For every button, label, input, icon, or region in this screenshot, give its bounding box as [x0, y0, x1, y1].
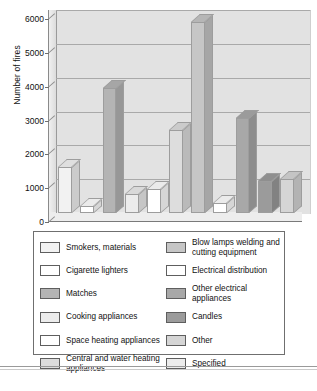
legend-swatch: [166, 242, 186, 253]
bar-chart-figure: Number of fires 010002000300040005000600…: [0, 0, 317, 228]
legend-item-label: Other: [192, 336, 212, 346]
y-axis-tick-label: 2000: [25, 150, 44, 159]
y-axis-tick-label: 5000: [25, 49, 44, 58]
legend-item: Other: [160, 329, 286, 352]
bar: [258, 181, 272, 213]
page-divider-rule-2: [0, 369, 317, 370]
bar: [169, 130, 183, 213]
legend-swatch: [40, 358, 60, 369]
y-axis-tick-mark: [45, 19, 49, 20]
bar-front-face: [125, 194, 139, 213]
legend-item: Other electrical appliances: [160, 282, 286, 305]
y-axis-tick-mark: [45, 154, 49, 155]
legend-swatch: [40, 288, 60, 299]
legend-swatch: [40, 265, 60, 276]
gridline: [56, 44, 310, 45]
y-axis-tick-label: 4000: [25, 82, 44, 91]
legend-item: Space heating appliances: [34, 329, 160, 352]
y-axis-tick-label: 0: [39, 218, 44, 227]
legend-item-label: Smokers, materials: [66, 243, 136, 253]
y-axis-title: Number of fires: [12, 30, 22, 120]
gridline: [56, 78, 310, 79]
legend-item-label: Blow lamps welding and cutting equipment: [192, 238, 286, 257]
y-axis-tick-mark: [45, 87, 49, 88]
bar-front-face: [169, 130, 183, 213]
plot-area: 0100020003000400050006000: [48, 10, 310, 222]
bar-front-face: [213, 203, 227, 213]
bar: [103, 88, 117, 213]
bar: [280, 179, 294, 213]
legend-item: Cooking appliances: [34, 306, 160, 329]
bar-side-face: [249, 111, 257, 213]
legend-swatch: [166, 358, 186, 369]
bar-side-face: [183, 123, 191, 213]
legend-item-label: Other electrical appliances: [192, 284, 286, 303]
legend-item: Candles: [160, 306, 286, 329]
legend-column-right: Blow lamps welding and cutting equipment…: [160, 236, 286, 352]
legend-swatch: [166, 265, 186, 276]
y-axis-tick-mark: [45, 188, 49, 189]
gridline: [56, 10, 310, 11]
bar-front-face: [80, 206, 94, 213]
legend-swatch: [166, 335, 186, 346]
page-divider-rule: [0, 366, 317, 367]
legend-item-label: Central and water heating appliances: [66, 354, 160, 373]
bar: [147, 189, 161, 213]
bar-front-face: [280, 179, 294, 213]
bar: [191, 22, 205, 213]
legend-item-label: Candles: [192, 312, 222, 322]
bar: [236, 118, 250, 213]
bar: [213, 203, 227, 213]
y-axis-tick-mark: [45, 53, 49, 54]
legend-swatch: [166, 312, 186, 323]
y-axis-line: [48, 10, 49, 222]
y-axis-tick-label: 1000: [25, 184, 44, 193]
y-axis-tick-mark: [45, 121, 49, 122]
legend-item-label: Matches: [66, 289, 97, 299]
bar: [58, 167, 72, 213]
legend-item-label: Electrical distribution: [192, 266, 267, 276]
bar-front-face: [191, 22, 205, 213]
legend-item: Electrical distribution: [160, 259, 286, 282]
plot-floor: [48, 212, 302, 222]
legend-item-label: Cooking appliances: [66, 312, 137, 322]
bar-side-face: [116, 81, 124, 213]
legend-swatch: [40, 335, 60, 346]
bar-front-face: [103, 88, 117, 213]
legend-item-label: Cigarette lighters: [66, 266, 128, 276]
gridline: [56, 112, 310, 113]
bar: [125, 194, 139, 213]
legend-item: Smokers, materials: [34, 236, 160, 259]
bar-front-face: [147, 189, 161, 213]
bar-front-face: [58, 167, 72, 213]
bar-side-face: [294, 172, 302, 213]
legend-item: Cigarette lighters: [34, 259, 160, 282]
bar-front-face: [258, 181, 272, 213]
y-axis-tick-label: 3000: [25, 116, 44, 125]
legend-item-label: Space heating appliances: [66, 336, 160, 346]
bar-side-face: [72, 160, 80, 213]
legend-item: Central and water heating appliances: [34, 352, 160, 375]
legend-item: Matches: [34, 282, 160, 305]
legend-item: Specified: [160, 352, 286, 375]
bar-side-face: [205, 15, 213, 213]
bar: [80, 206, 94, 213]
legend-item: Blow lamps welding and cutting equipment: [160, 236, 286, 259]
y-axis-tick-label: 6000: [25, 15, 44, 24]
bar-front-face: [236, 118, 250, 213]
legend-column-left: Smokers, materialsCigarette lightersMatc…: [34, 236, 160, 352]
chart-legend: Smokers, materialsCigarette lightersMatc…: [33, 231, 285, 355]
legend-swatch: [40, 242, 60, 253]
legend-swatch: [40, 312, 60, 323]
y-axis-tick-mark: [45, 222, 49, 223]
legend-swatch: [166, 288, 186, 299]
